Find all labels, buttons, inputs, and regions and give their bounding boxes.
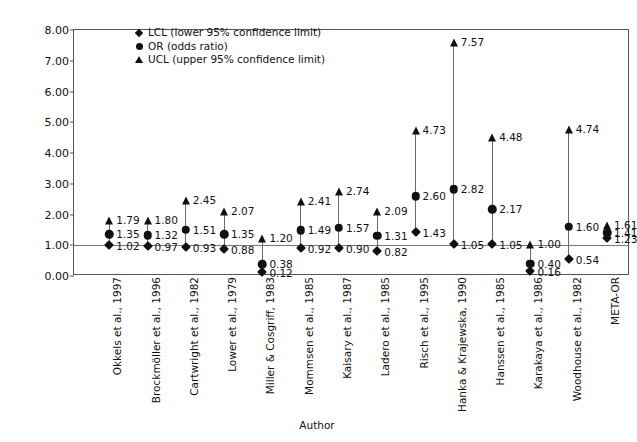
or-value-label: 1.60 <box>576 221 599 233</box>
ucl-value-label: 4.73 <box>423 124 446 136</box>
lcl-marker <box>564 254 574 264</box>
x-tick-label: Hanssen et al., 1985 <box>495 277 506 385</box>
legend-item: OR (odds ratio) <box>133 40 325 54</box>
x-tick-label: Lower et al., 1979 <box>227 277 238 372</box>
or-marker <box>373 231 382 240</box>
lcl-marker <box>181 242 191 252</box>
diamond-icon <box>133 30 145 36</box>
y-tick-mark <box>70 60 74 61</box>
lcl-value-label: 1.43 <box>423 227 446 239</box>
ucl-marker <box>565 126 573 134</box>
y-tick-mark <box>70 30 74 31</box>
triangle-icon <box>133 56 145 63</box>
confidence-interval-whisker <box>453 43 454 243</box>
x-tick-label: Cartwright et al., 1982 <box>189 277 200 396</box>
lcl-value-label: 0.92 <box>308 243 331 255</box>
ucl-value-label: 4.74 <box>576 123 599 135</box>
lcl-marker <box>257 267 267 277</box>
confidence-interval-whisker <box>300 202 301 248</box>
or-marker <box>182 225 191 234</box>
lcl-marker <box>104 240 114 250</box>
or-marker <box>105 230 114 239</box>
legend-label: LCL (lower 95% confidence limit) <box>148 26 321 40</box>
or-value-label: 1.51 <box>193 224 216 236</box>
confidence-interval-whisker <box>338 192 339 249</box>
or-value-label: 2.60 <box>423 190 446 202</box>
lcl-marker <box>525 266 535 276</box>
ucl-marker <box>220 208 228 216</box>
lcl-value-label: 0.54 <box>576 254 599 266</box>
x-tick-label: Miller & Cosgriff, 1983 <box>265 277 276 394</box>
or-marker <box>296 226 305 235</box>
ucl-value-label: 2.07 <box>231 205 254 217</box>
y-tick-label: 5.00 <box>45 116 70 129</box>
or-marker <box>564 223 573 232</box>
legend-label: UCL (upper 95% confidence limit) <box>148 53 325 67</box>
or-marker <box>488 205 497 214</box>
ucl-marker <box>258 235 266 243</box>
or-value-label: 2.17 <box>499 203 522 215</box>
y-tick-label: 3.00 <box>45 177 70 190</box>
x-tick-label: Karakaya et al., 1986 <box>533 277 544 389</box>
y-tick-label: 8.00 <box>45 24 70 37</box>
lcl-marker <box>487 239 497 249</box>
x-tick-label: Brockmöller et al., 1996 <box>151 277 162 403</box>
ucl-value-label: 1.80 <box>155 214 178 226</box>
ucl-marker <box>412 126 420 134</box>
x-tick-label: Hanka & Krajewska, 1990 <box>457 277 468 412</box>
lcl-marker <box>296 243 306 253</box>
ucl-marker <box>526 241 534 249</box>
or-value-label: 1.49 <box>308 224 331 236</box>
ucl-marker <box>105 217 113 225</box>
y-tick-label: 2.00 <box>45 208 70 221</box>
y-tick-label: 6.00 <box>45 85 70 98</box>
x-axis-labels: Okkels et al., 1997Brockmöller et al., 1… <box>73 277 629 415</box>
or-value-label: 1.57 <box>346 222 369 234</box>
or-value-label: 1.32 <box>155 229 178 241</box>
or-marker <box>411 192 420 201</box>
ucl-marker <box>182 196 190 204</box>
ucl-value-label: 1.79 <box>116 214 139 226</box>
or-marker <box>335 223 344 232</box>
ucl-marker <box>335 187 343 195</box>
y-tick-mark <box>70 91 74 92</box>
legend-item: LCL (lower 95% confidence limit) <box>133 26 325 40</box>
or-value-label: 1.31 <box>384 230 407 242</box>
y-tick-label: 0.00 <box>45 270 70 283</box>
lcl-marker <box>411 227 421 237</box>
confidence-interval-whisker <box>185 201 186 248</box>
ucl-value-label: 2.41 <box>308 195 331 207</box>
lcl-value-label: 0.97 <box>155 241 178 253</box>
y-tick-mark <box>70 214 74 215</box>
y-tick-mark <box>70 122 74 123</box>
lcl-marker <box>372 246 382 256</box>
ucl-marker <box>373 207 381 215</box>
x-tick-label: Risch et al., 1995 <box>419 277 430 368</box>
y-tick-label: 4.00 <box>45 147 70 160</box>
lcl-value-label: 0.88 <box>231 244 254 256</box>
legend-item: UCL (upper 95% confidence limit) <box>133 53 325 67</box>
ucl-value-label: 7.57 <box>461 36 484 48</box>
ucl-value-label: 2.74 <box>346 185 369 197</box>
or-value-label: 1.35 <box>231 228 254 240</box>
ucl-value-label: 1.20 <box>269 232 292 244</box>
legend-label: OR (odds ratio) <box>148 40 228 54</box>
y-tick-mark <box>70 183 74 184</box>
lcl-value-label: 1.23 <box>614 233 637 245</box>
y-tick-label: 1.00 <box>45 239 70 252</box>
or-marker <box>450 185 459 194</box>
or-value-label: 2.82 <box>461 183 484 195</box>
lcl-marker <box>143 241 153 251</box>
lcl-value-label: 1.05 <box>499 239 522 251</box>
ucl-marker <box>488 134 496 142</box>
lcl-value-label: 0.82 <box>384 246 407 258</box>
lcl-value-label: 1.02 <box>116 240 139 252</box>
x-tick-label: Woodhouse et al., 1982 <box>572 277 583 401</box>
confidence-interval-whisker <box>492 138 493 243</box>
lcl-value-label: 1.05 <box>461 239 484 251</box>
ucl-marker <box>297 197 305 205</box>
circle-icon <box>133 43 145 50</box>
x-axis-title: Author <box>0 419 634 431</box>
ucl-value-label: 2.09 <box>384 205 407 217</box>
